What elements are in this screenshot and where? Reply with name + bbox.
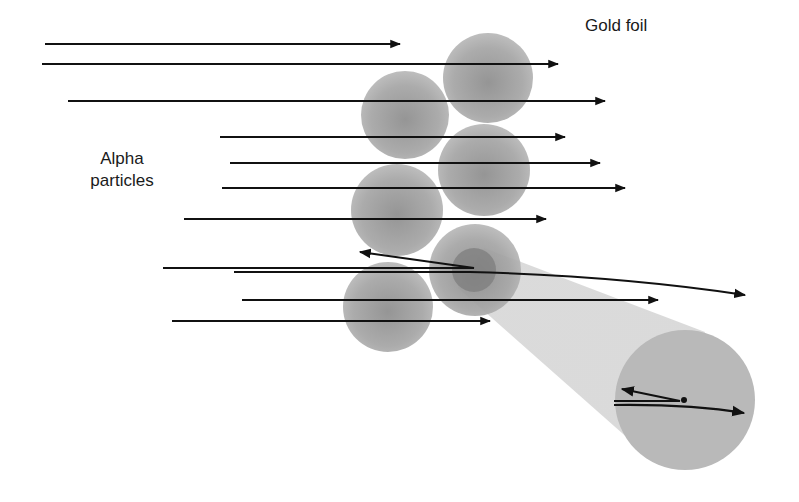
backscatter-arrow bbox=[163, 252, 474, 268]
gold-atom bbox=[351, 164, 443, 256]
diagram-canvas bbox=[0, 0, 799, 502]
gold-atoms bbox=[343, 33, 533, 352]
alpha-label-line2: particles bbox=[82, 170, 162, 192]
gold-foil-label: Gold foil bbox=[585, 15, 647, 37]
gold-atom bbox=[361, 71, 449, 159]
alpha-particles-label: Alpha particles bbox=[82, 148, 162, 192]
alpha-label-line1: Alpha bbox=[82, 148, 162, 170]
gold-atom bbox=[343, 262, 433, 352]
highlighted-nucleus-region bbox=[452, 248, 496, 292]
rutherford-gold-foil-diagram: Gold foil Alpha particles bbox=[0, 0, 799, 502]
gold-atom bbox=[443, 33, 533, 123]
magnified-atom bbox=[614, 330, 755, 470]
nucleus-dot bbox=[681, 397, 687, 403]
